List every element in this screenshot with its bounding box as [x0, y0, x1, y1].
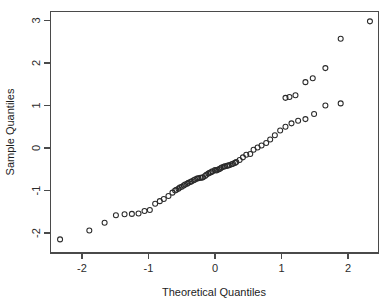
x-tick-label: 0	[212, 262, 218, 274]
y-tick-label: 0	[30, 145, 42, 151]
x-tick-label: -1	[144, 262, 154, 274]
x-tick-label: 1	[278, 262, 284, 274]
y-tick-label: 1	[30, 102, 42, 108]
x-tick-label: 2	[345, 262, 351, 274]
x-tick-label: -2	[77, 262, 87, 274]
y-tick-label: -2	[30, 228, 42, 238]
y-axis-title: Sample Quantiles	[4, 88, 16, 175]
x-axis-title: Theoretical Quantiles	[162, 286, 266, 298]
qq-plot-canvas: -2-1012 -2-10123 Theoretical Quantiles S…	[0, 0, 385, 303]
figure-background	[0, 0, 385, 303]
y-tick-label: 2	[30, 60, 42, 66]
qq-plot-figure: -2-1012 -2-10123 Theoretical Quantiles S…	[0, 0, 385, 303]
y-tick-label: 3	[30, 17, 42, 23]
y-tick-label: -1	[30, 186, 42, 196]
